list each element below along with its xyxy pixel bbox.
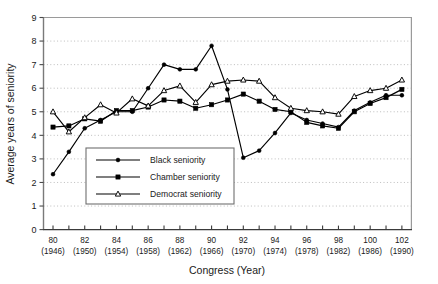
x-tick-year-label: (1950) (73, 247, 97, 256)
y-tick-label: 7 (31, 60, 36, 70)
data-point-marker (225, 98, 229, 102)
x-tick-year-label: (1954) (105, 247, 129, 256)
x-tick-year-label: (1962) (168, 247, 192, 256)
data-point-marker (162, 98, 166, 102)
x-tick-congress-label: 94 (270, 236, 280, 245)
data-point-marker (146, 86, 150, 90)
x-tick-congress-label: 82 (80, 236, 90, 245)
data-point-marker (51, 172, 55, 176)
y-tick-label: 0 (31, 225, 36, 235)
data-point-marker (241, 156, 245, 160)
data-point-marker (305, 120, 309, 124)
chart-legend: Black seniorityChamber seniorityDemocrat… (86, 148, 234, 204)
data-point-marker (257, 99, 261, 103)
data-point-marker (384, 96, 388, 100)
data-point-marker (51, 125, 55, 129)
data-point-marker (257, 149, 261, 153)
y-tick-label: 3 (31, 154, 36, 164)
data-point-marker (83, 126, 87, 130)
x-tick-congress-label: 100 (363, 236, 377, 245)
x-tick-year-label: (1982) (327, 247, 351, 256)
legend-label: Black seniority (150, 155, 206, 165)
data-point-marker (178, 99, 182, 103)
data-point-marker (194, 106, 198, 110)
data-point-marker (273, 107, 277, 111)
y-tick-label: 1 (31, 201, 36, 211)
legend-label: Chamber seniority (150, 172, 220, 182)
x-tick-year-label: (1970) (231, 247, 255, 256)
data-point-marker (130, 108, 134, 112)
x-tick-congress-label: 84 (112, 236, 122, 245)
x-tick-congress-label: 96 (302, 236, 312, 245)
x-tick-congress-label: 80 (48, 236, 58, 245)
y-tick-label: 9 (31, 13, 36, 23)
data-point-marker (400, 93, 404, 97)
x-tick-year-label: (1974) (263, 247, 287, 256)
x-tick-year-label: (1946) (41, 247, 65, 256)
x-tick-congress-label: 102 (395, 236, 409, 245)
data-point-marker (209, 103, 213, 107)
y-tick-label: 6 (31, 83, 36, 93)
legend-label: Democrat seniority (150, 189, 222, 199)
data-point-marker (400, 87, 404, 91)
legend-marker-dot (116, 158, 120, 162)
x-tick-congress-label: 90 (207, 236, 217, 245)
data-point-marker (194, 67, 198, 71)
x-tick-congress-label: 92 (239, 236, 249, 245)
figure-container: 0123456789 80(1946)82(1950)84(1954)86(19… (0, 0, 438, 284)
data-point-marker (210, 44, 214, 48)
legend-marker-square (116, 175, 120, 179)
x-tick-year-label: (1958) (136, 247, 160, 256)
data-point-marker (368, 101, 372, 105)
data-point-marker (336, 126, 340, 130)
data-point-marker (352, 110, 356, 114)
x-tick-congress-label: 88 (175, 236, 185, 245)
data-point-marker (226, 87, 230, 91)
seniority-line-chart: 0123456789 80(1946)82(1950)84(1954)86(19… (0, 0, 438, 284)
x-tick-year-label: (1978) (295, 247, 319, 256)
x-tick-congress-label: 98 (334, 236, 344, 245)
x-tick-congress-label: 86 (144, 236, 154, 245)
data-point-marker (67, 124, 71, 128)
data-point-marker (67, 150, 71, 154)
y-axis-title: Average years of seniority (4, 63, 16, 185)
y-tick-label: 8 (31, 36, 36, 46)
x-tick-year-label: (1986) (358, 247, 382, 256)
y-tick-label: 4 (31, 131, 36, 141)
data-point-marker (178, 67, 182, 71)
data-point-marker (320, 124, 324, 128)
x-axis-title: Congress (Year) (189, 264, 265, 276)
x-tick-year-label: (1990) (390, 247, 414, 256)
data-point-marker (241, 92, 245, 96)
x-tick-year-label: (1966) (200, 247, 224, 256)
data-point-marker (162, 63, 166, 67)
data-point-marker (98, 119, 102, 123)
y-tick-label: 2 (31, 178, 36, 188)
data-point-marker (273, 131, 277, 135)
y-tick-label: 5 (31, 107, 36, 117)
